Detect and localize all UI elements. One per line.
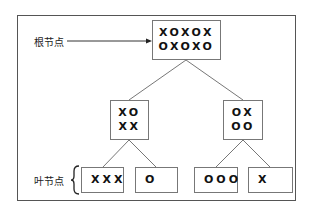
leaf-node-3: OOO [194,167,238,193]
leaf-nodes-label: 叶节点 [34,173,64,188]
leaf-1-text: XXX [91,173,125,187]
leaf-node-4: X [248,167,293,193]
level1-left-row-1: XO [118,106,140,120]
root-row-2: OXOXO [159,40,215,54]
root-row-1: XOXOX [159,26,214,40]
leaf-node-2: O [135,167,178,193]
root-node-label: 根节点 [34,34,64,49]
leaf-2-text: O [145,173,157,187]
root-node: XOXOX OXOXO [152,20,221,60]
edge-right-leaf3 [216,140,243,167]
edge-left-leaf1 [103,140,129,167]
leaf-3-text: OOO [204,173,241,187]
leaf-4-text: X [258,173,269,187]
edge-root-right [186,60,243,100]
level1-left-row-2: XX [119,120,141,134]
edge-left-leaf2 [129,140,156,167]
level1-right-row-2: OO [231,120,255,134]
level1-node-right: OX OO [223,100,263,140]
edge-root-left [129,60,186,100]
edge-right-leaf4 [243,140,270,167]
leaf-brace-icon [71,166,79,194]
level1-node-left: XO XX [110,100,149,140]
leaf-node-1: XXX [81,167,124,193]
level1-right-row-1: OX [232,106,254,120]
